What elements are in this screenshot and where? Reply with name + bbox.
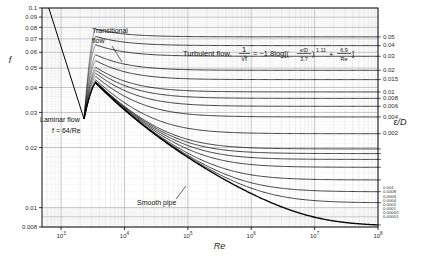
y-tick-label: 0.03 [25,110,37,116]
svg-text:1.11: 1.11 [316,47,326,53]
relative-roughness-label: 0.002 [383,130,399,136]
moody-diagram: 0.10.090.080.070.060.050.040.030.020.010… [0,0,427,256]
x-axis-label: Re [214,241,226,251]
relative-roughness-label: 0.00001 [383,214,399,219]
svg-text:flow: flow [92,37,105,44]
y-axis-ticks: 0.10.090.080.070.060.050.040.030.020.010… [22,5,42,230]
svg-text:= −1.8log[(: = −1.8log[( [253,49,289,58]
y-tick-label: 0.01 [25,205,37,211]
svg-text:f = 64/Re: f = 64/Re [52,127,81,134]
x-tick-label: 105 [183,231,193,239]
x-tick-label: 106 [247,231,257,239]
relative-roughness-axis-label: ε/D [394,117,407,127]
svg-text:Turbulent flow,: Turbulent flow, [183,49,232,58]
y-tick-label: 0.008 [22,224,38,230]
y-tick-label: 0.02 [25,145,37,151]
y-tick-label: 0.1 [29,5,38,11]
svg-text:6.9: 6.9 [340,47,348,53]
svg-text:Transitional: Transitional [92,27,128,34]
y-axis-label: f [9,55,13,65]
relative-roughness-label: 0.01 [383,89,395,95]
relative-roughness-label: 0.03 [383,53,395,59]
y-tick-label: 0.07 [25,36,37,42]
x-tick-label: 104 [120,231,130,239]
relative-roughness-label: 0.015 [383,76,399,82]
y-tick-label: 0.09 [25,14,37,20]
relative-roughness-label: 0.006 [383,103,399,109]
relative-roughness-label: 0.02 [383,67,395,73]
svg-text:ε/D: ε/D [300,47,308,53]
x-tick-label: 108 [373,231,383,239]
svg-text:Laminar flow: Laminar flow [40,116,81,123]
y-tick-label: 0.04 [25,85,37,91]
svg-text:]: ] [352,49,354,58]
relative-roughness-label: 0.008 [383,95,399,101]
svg-text:3.7: 3.7 [300,56,308,62]
svg-text:Smooth pipe: Smooth pipe [137,199,176,207]
y-tick-label: 0.05 [25,65,37,71]
svg-text:1: 1 [242,45,246,54]
relative-roughness-axis: 0.050.040.030.020.0150.010.0080.0060.004… [378,34,399,225]
relative-roughness-label: 0.04 [383,42,395,48]
x-tick-label: 103 [56,231,66,239]
x-tick-label: 107 [310,231,320,239]
moody-chart-svg: 0.10.090.080.070.060.050.040.030.020.010… [0,0,427,256]
relative-roughness-label: 0.05 [383,34,395,40]
x-axis-ticks: 103104105106107108 [56,227,383,239]
svg-text:Re: Re [341,56,348,62]
svg-text:√f: √f [241,54,248,63]
y-tick-label: 0.06 [25,49,37,55]
svg-text:+: + [329,50,334,59]
y-tick-label: 0.08 [25,25,37,31]
